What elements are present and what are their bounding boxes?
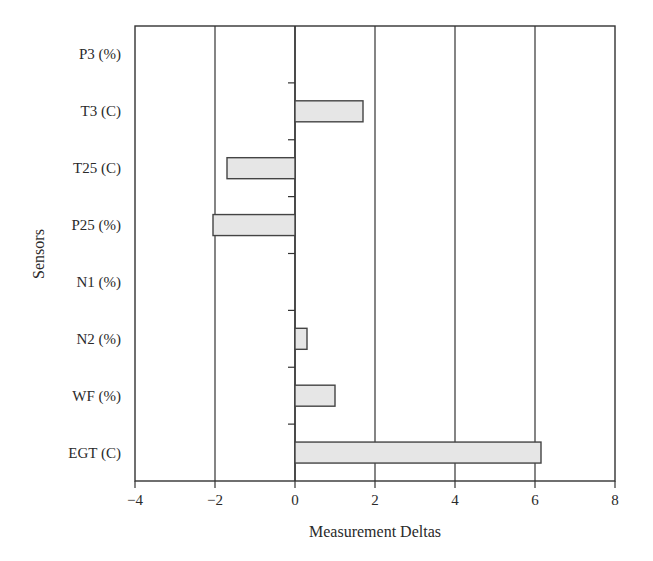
y-axis-ticks [288, 83, 295, 424]
y-tick-label: WF (%) [72, 388, 121, 405]
bar [295, 385, 335, 406]
x-tick-label: 2 [371, 492, 379, 508]
y-tick-label: EGT (C) [68, 445, 121, 462]
bar [295, 328, 307, 349]
y-tick-label: P3 (%) [79, 46, 121, 63]
grid-lines [215, 26, 535, 481]
bar-chart: P3 (%)T3 (C)T25 (C)P25 (%)N1 (%)N2 (%)WF… [0, 0, 653, 561]
x-tick-label: 6 [531, 492, 539, 508]
y-axis-labels: P3 (%)T3 (C)T25 (C)P25 (%)N1 (%)N2 (%)WF… [68, 46, 121, 461]
y-tick-label: T25 (C) [73, 160, 121, 177]
y-tick-label: T3 (C) [81, 103, 121, 120]
bar [213, 215, 295, 236]
y-axis-title: Sensors [30, 229, 47, 279]
x-tick-label: 8 [611, 492, 619, 508]
x-tick-label: 0 [291, 492, 299, 508]
x-axis-title: Measurement Deltas [309, 523, 441, 540]
x-axis-labels: −4−202468 [127, 492, 619, 508]
bar [295, 442, 541, 463]
bars [213, 101, 541, 463]
bar [227, 158, 295, 179]
x-tick-label: −4 [127, 492, 143, 508]
y-tick-label: P25 (%) [71, 217, 121, 234]
x-axis-ticks [135, 481, 615, 488]
y-tick-label: N2 (%) [76, 331, 121, 348]
y-tick-label: N1 (%) [76, 274, 121, 291]
bar [295, 101, 363, 122]
x-tick-label: −2 [207, 492, 223, 508]
x-tick-label: 4 [451, 492, 459, 508]
